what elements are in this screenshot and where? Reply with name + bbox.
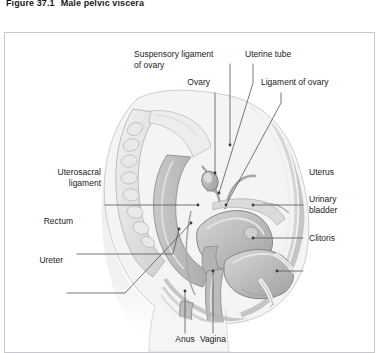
- figure-frame: Suspensory ligament of ovary Uterine tub…: [4, 32, 375, 353]
- label-vagina: Vagina: [191, 334, 235, 345]
- label-line-1: Vagina: [191, 334, 235, 345]
- label-ligament-of-ovary: Ligament of ovary: [261, 77, 329, 88]
- figure-title: Male pelvic viscera: [61, 0, 144, 8]
- label-line-1: Rectum: [23, 216, 73, 227]
- figure-number: Figure 37.1: [6, 0, 55, 8]
- label-line-1: Uterosacral: [23, 167, 101, 178]
- label-uterus: Uterus: [309, 167, 334, 178]
- label-ureter: Ureter: [23, 255, 63, 266]
- label-line-1: Suspensory ligament: [134, 49, 213, 60]
- label-line-2: of ovary: [134, 60, 213, 71]
- label-urinary-bladder: Urinary bladder: [309, 194, 337, 215]
- label-line-1: Uterus: [309, 167, 334, 178]
- label-rectum: Rectum: [23, 216, 73, 227]
- label-line-2: bladder: [309, 205, 337, 216]
- label-line-1: Clitoris: [309, 233, 335, 244]
- label-line-1: Urinary: [309, 194, 337, 205]
- label-clitoris: Clitoris: [309, 233, 335, 244]
- label-line-1: Ovary: [155, 77, 210, 88]
- figure-caption: Figure 37.1Male pelvic viscera: [6, 0, 144, 8]
- label-uterine-tube: Uterine tube: [245, 49, 291, 60]
- label-uterosacral-ligament: Uterosacral ligament: [23, 167, 101, 188]
- label-line-1: Ligament of ovary: [261, 77, 329, 88]
- label-suspensory-ligament-of-ovary: Suspensory ligament of ovary: [134, 49, 213, 70]
- label-line-2: ligament: [23, 178, 101, 189]
- label-ovary: Ovary: [155, 77, 210, 88]
- label-line-1: Ureter: [23, 255, 63, 266]
- label-line-1: Uterine tube: [245, 49, 291, 60]
